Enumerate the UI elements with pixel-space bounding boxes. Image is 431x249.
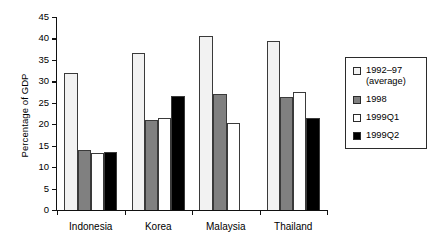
bar	[78, 150, 91, 210]
chart-legend: 1992–97 (average) 1998 1999Q1 1999Q2	[345, 57, 427, 149]
bar-group-bars	[132, 17, 185, 210]
legend-item: 1999Q2	[353, 130, 418, 141]
legend-item: 1999Q1	[353, 112, 418, 123]
y-tick-label: 30	[38, 77, 49, 87]
category-tick-mark	[57, 210, 58, 215]
category-tick-mark	[327, 210, 328, 215]
legend-swatch-1998-icon	[353, 96, 361, 104]
category-tick-mark	[192, 210, 193, 215]
legend-swatch-1992-97-icon	[353, 67, 361, 75]
legend-label: 1998	[366, 94, 387, 105]
bar-group: Korea	[125, 17, 193, 210]
bar	[306, 118, 319, 210]
bar-group: Malaysia	[192, 17, 260, 210]
bar	[132, 53, 145, 210]
bar	[145, 120, 158, 210]
category-label: Korea	[145, 221, 172, 232]
category-label: Malaysia	[206, 221, 245, 232]
legend-label: 1992–97 (average)	[366, 65, 406, 87]
bar	[227, 123, 241, 210]
y-axis-label: Percentage of GDP	[19, 36, 30, 196]
bar	[171, 96, 184, 210]
bar-group: Indonesia	[57, 17, 125, 210]
legend-item: 1992–97 (average)	[353, 65, 418, 87]
category-label: Thailand	[274, 221, 312, 232]
bar	[91, 153, 104, 210]
y-tick-label: 0	[44, 205, 49, 215]
legend-swatch-1999q1-icon	[353, 114, 361, 122]
legend-label: 1999Q1	[366, 112, 399, 123]
plot-area: 45 40 35 30 25 20 15 10 5 0 IndonesiaKor…	[57, 17, 327, 210]
bar-group-bars	[64, 17, 117, 210]
category-tick-mark	[125, 210, 126, 215]
legend-swatch-1999q2-icon	[353, 132, 361, 140]
y-tick-label: 20	[38, 119, 49, 129]
bar	[199, 36, 213, 210]
bar	[213, 94, 227, 210]
bar-group: Thailand	[260, 17, 328, 210]
y-tick-label: 5	[44, 184, 49, 194]
y-tick-label: 40	[38, 34, 49, 44]
bar	[64, 73, 77, 210]
y-tick-label: 10	[38, 162, 49, 172]
y-tick-label: 15	[38, 141, 49, 151]
legend-label: 1999Q2	[366, 130, 399, 141]
y-tick-label: 35	[38, 55, 49, 65]
bar-group-bars	[199, 17, 252, 210]
bar	[104, 152, 117, 210]
bar-group-bars	[267, 17, 320, 210]
legend-item: 1998	[353, 94, 418, 105]
category-label: Indonesia	[69, 221, 112, 232]
y-tick-label: 45	[38, 12, 49, 22]
y-tick-label: 25	[38, 98, 49, 108]
bar	[158, 118, 171, 210]
bar-chart: Percentage of GDP 45 40 35 30 25 20 15 1…	[0, 0, 431, 249]
category-tick-mark	[260, 210, 261, 215]
bar	[293, 92, 306, 210]
bar	[267, 41, 280, 210]
bar	[280, 97, 293, 210]
bar-groups: IndonesiaKoreaMalaysiaThailand	[57, 17, 327, 210]
